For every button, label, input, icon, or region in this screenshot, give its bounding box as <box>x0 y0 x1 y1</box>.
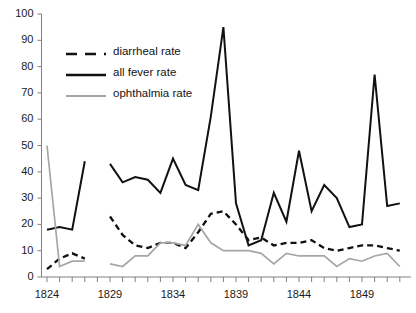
x-axis-tick-label: 1839 <box>216 289 256 300</box>
x-axis-tick-label: 1834 <box>153 289 193 300</box>
series-line <box>110 211 400 250</box>
x-axis-tick-label: 1844 <box>279 289 319 300</box>
legend-item-all-fever: all fever rate <box>65 62 255 83</box>
legend-label-ophthalmia: ophthalmia rate <box>113 88 192 100</box>
series-line <box>110 224 400 266</box>
series-line <box>47 146 85 267</box>
legend-label-diarrheal: diarrheal rate <box>113 46 181 58</box>
y-axis-tick-label: 30 <box>4 192 34 203</box>
legend-label-all-fever: all fever rate <box>113 67 176 79</box>
y-axis-tick-label: 70 <box>4 87 34 98</box>
x-axis-tick-label: 1824 <box>27 289 67 300</box>
y-axis-tick-label: 60 <box>4 113 34 124</box>
x-axis-tick-label: 1849 <box>342 289 382 300</box>
y-axis-tick-label: 50 <box>4 140 34 151</box>
y-axis-tick-label: 100 <box>4 8 34 19</box>
y-axis-tick-label: 40 <box>4 166 34 177</box>
legend-swatch-all-fever <box>65 67 107 79</box>
legend-item-diarrheal: diarrheal rate <box>65 41 255 62</box>
y-axis-tick-label: 90 <box>4 34 34 45</box>
legend-swatch-diarrheal <box>65 46 107 58</box>
legend-item-ophthalmia: ophthalmia rate <box>65 83 255 104</box>
chart-legend: diarrheal rate all fever rate ophthalmia… <box>65 41 255 104</box>
y-axis-tick-label: 10 <box>4 245 34 256</box>
legend-swatch-ophthalmia <box>65 88 107 100</box>
y-axis-tick-label: 20 <box>4 218 34 229</box>
line-chart: 0102030405060708090100 18241829183418391… <box>0 0 416 313</box>
y-axis-tick-label: 0 <box>4 271 34 282</box>
y-axis-tick-label: 80 <box>4 61 34 72</box>
x-axis-tick-label: 1829 <box>90 289 130 300</box>
